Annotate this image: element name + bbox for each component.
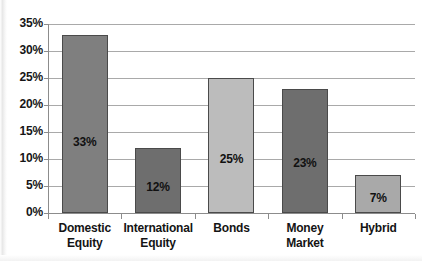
x-axis-tick [48,214,49,219]
x-axis-line [48,213,415,214]
y-axis-tick-label: 20% [3,97,43,111]
bar-group: 33% [48,24,121,213]
y-axis-labels: 0%5%10%15%20%25%30%35% [0,0,43,261]
bar-value-label: 25% [220,152,243,166]
x-axis-tick [268,214,269,219]
x-axis-tick [195,214,196,219]
y-axis-tick-label: 25% [3,70,43,84]
category-label-line: Money Market [268,221,341,251]
y-axis-tick-label: 35% [3,16,43,30]
bar-group: 25% [195,24,268,213]
category-label-line: Equity [48,236,121,251]
y-axis-tick-label: 0% [3,205,43,219]
bar-group: 7% [342,24,415,213]
category-label-line: Bonds [195,221,268,236]
category-label: Hybrid [342,221,415,236]
category-label: DomesticEquity [48,221,121,251]
y-axis-tick-label: 5% [3,178,43,192]
category-label-line: Equity [121,236,194,251]
bar-group: 23% [268,24,341,213]
bar-value-label: 33% [73,135,96,149]
x-axis-tick [121,214,122,219]
bar-group: 12% [121,24,194,213]
bar [62,35,108,213]
x-axis-category-labels: DomesticEquityInternationalEquityBondsMo… [48,221,415,261]
category-label: Bonds [195,221,268,236]
bar [282,89,328,213]
chart-bars: 33%12%25%23%7% [48,24,415,213]
category-label: Money Market [268,221,341,251]
category-label-line: Hybrid [342,221,415,236]
bar-value-label: 12% [146,180,169,194]
bar [208,78,254,213]
chart-screenshot: 0%5%10%15%20%25%30%35% 33%12%25%23%7% Do… [0,0,422,261]
category-label-line: Domestic [48,221,121,236]
bar-value-label: 23% [293,156,316,170]
y-axis-tick-label: 10% [3,151,43,165]
y-axis-tick-label: 15% [3,124,43,138]
x-axis-tick [342,214,343,219]
category-label-line: International [121,221,194,236]
x-axis-tick [415,214,416,219]
y-axis-tick-label: 30% [3,43,43,57]
category-label: InternationalEquity [121,221,194,251]
bar-value-label: 7% [370,191,387,205]
